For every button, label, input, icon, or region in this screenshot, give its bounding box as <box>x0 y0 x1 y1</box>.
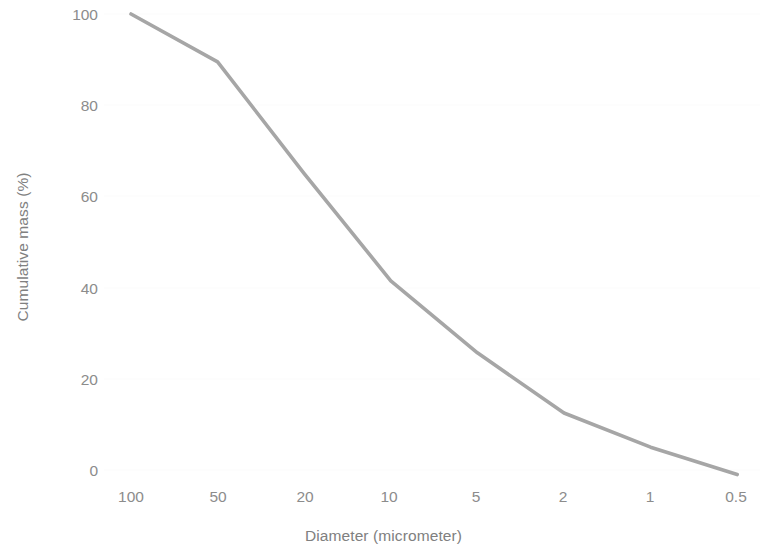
x-tick-label-0.5: 0.5 <box>706 489 766 505</box>
x-axis-title: Diameter (micrometer) <box>0 527 767 545</box>
x-tick-label-1: 1 <box>620 489 680 505</box>
x-tick-label-50: 50 <box>188 489 248 505</box>
gridlines <box>104 14 760 470</box>
x-tick-label-20: 20 <box>275 489 335 505</box>
x-tick-label-2: 2 <box>533 489 593 505</box>
x-tick-label-5: 5 <box>446 489 506 505</box>
x-tick-label-100: 100 <box>101 489 161 505</box>
cumulative-mass-distribution-chart: Cumulative mass (%) 100 80 60 40 20 0 10… <box>0 0 767 556</box>
x-tick-label-10: 10 <box>359 489 419 505</box>
series-line-cumulative-mass <box>131 14 737 475</box>
plot-area <box>0 0 767 556</box>
